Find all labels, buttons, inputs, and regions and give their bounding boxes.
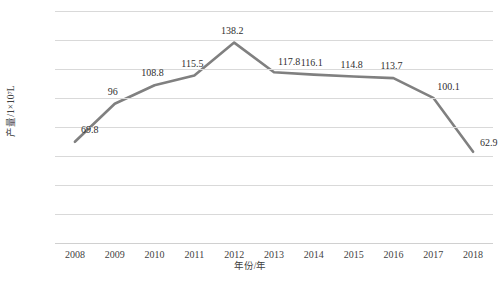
data-point-label: 116.1 [301,58,323,68]
gridline [55,214,493,215]
y-axis-title: 产量/1×10⁷L [3,75,17,147]
gridline [55,156,493,157]
data-point-label: 69.8 [81,125,99,135]
line-chart: 产量/1×10⁷L 年份/年 0204060801001201401602008… [0,0,500,283]
data-point-label: 138.2 [221,26,244,36]
x-axis-title: 年份/年 [0,258,500,272]
data-point-label: 62.9 [480,138,498,148]
gridline [55,185,493,186]
data-point-label: 114.8 [341,60,363,70]
plot-area: 0204060801001201401602008200920102011201… [55,11,493,243]
x-tick-label: 2018 [443,249,500,260]
gridline [55,11,493,12]
gridline [55,40,493,41]
data-point-label: 117.8 [278,57,300,67]
gridline [55,98,493,99]
gridline [55,243,493,244]
data-point-label: 113.7 [380,61,402,71]
data-point-label: 115.5 [181,59,203,69]
gridline [55,69,493,70]
data-point-label: 108.8 [141,68,164,78]
gridline [55,127,493,128]
data-point-label: 96 [108,87,118,97]
data-point-label: 100.1 [437,82,460,92]
